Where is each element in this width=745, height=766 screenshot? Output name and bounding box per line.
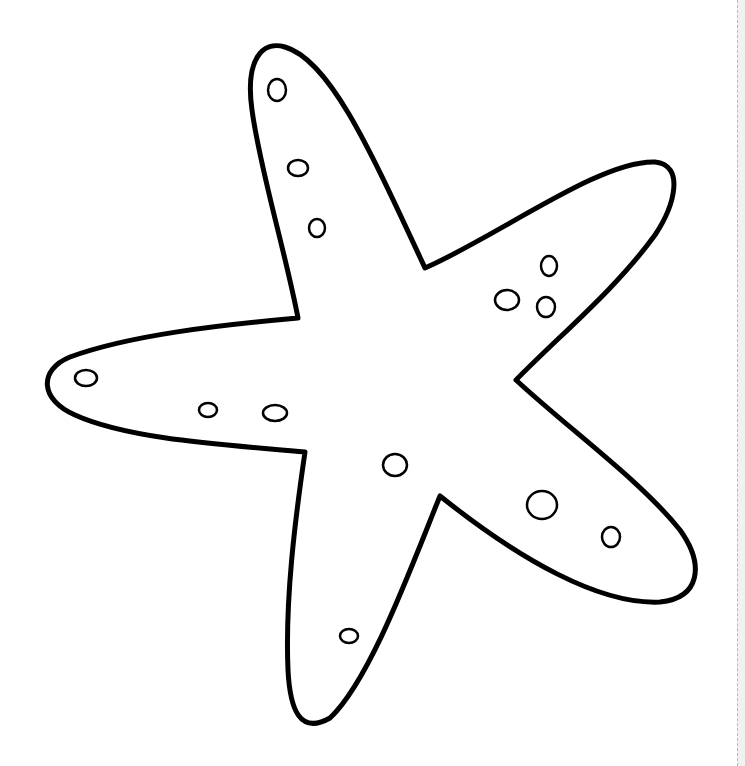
starfish-outline: [47, 46, 695, 724]
starfish-drawing: [0, 0, 745, 766]
